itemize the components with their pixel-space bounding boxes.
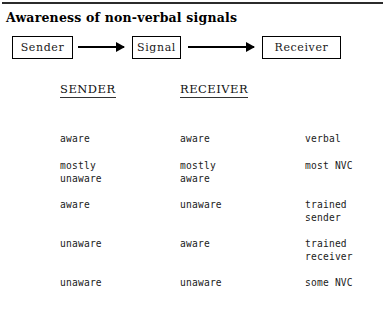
cell-result: some NVC [305,276,353,289]
cell-sender: aware [60,198,90,211]
column-header-receiver: RECEIVER [180,82,248,98]
top-horizontal-rule [2,2,383,4]
page-title: Awareness of non-verbal signals [6,10,237,25]
cell-sender: mostly unaware [60,159,102,185]
cell-result: most NVC [305,159,353,172]
cell-receiver: unaware [180,276,222,289]
cell-receiver: aware [180,132,210,145]
document-page: Awareness of non-verbal signals Sender S… [0,0,385,311]
column-header-sender: SENDER [60,82,116,98]
cell-receiver: mostly aware [180,159,216,185]
cell-receiver: unaware [180,198,222,211]
cell-sender: aware [60,132,90,145]
cell-result: trained sender [305,198,347,224]
flow-node-signal: Signal [132,36,181,59]
flow-diagram: Sender Signal Receiver [0,34,385,64]
cell-result: trained receiver [305,237,353,263]
flow-node-sender: Sender [12,36,73,59]
flow-node-receiver: Receiver [262,36,341,59]
cell-sender: unaware [60,237,102,250]
arrow-signal-to-receiver-icon [188,46,254,48]
arrow-sender-to-signal-icon [78,46,124,48]
cell-sender: unaware [60,276,102,289]
cell-result: verbal [305,132,341,145]
cell-receiver: aware [180,237,210,250]
